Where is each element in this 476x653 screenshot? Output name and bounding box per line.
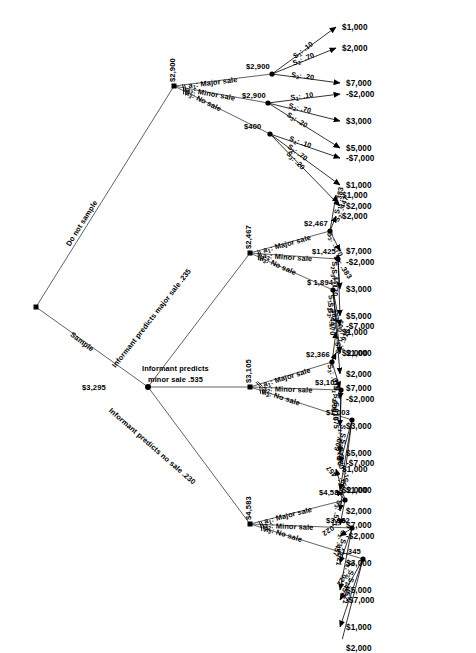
payoff-do-not-sample-a2-s1: -$2,000	[346, 90, 374, 99]
payoff-predicts-no-sale-a1-s1: $1,000	[342, 465, 368, 474]
payoff-do-not-sample-a1-s3: $7,000	[346, 79, 372, 88]
payoff-predicts-minor-sale-a2-s2: $3,000	[346, 422, 372, 431]
chance-node	[265, 100, 270, 105]
payoff-do-not-sample-a3-s3: $2,000	[346, 202, 372, 211]
payoff-predicts-major-sale-a2-s3: $5,000	[346, 312, 372, 321]
chance-emv-do-not-sample-a2: $2,900	[242, 91, 266, 100]
decision-node	[248, 385, 253, 390]
payoff-predicts-minor-sale-a1-s2: $2,000	[342, 349, 368, 358]
chance-emv-predicts-no-sale-a1: $4,583	[319, 488, 343, 497]
decision-node	[248, 522, 253, 527]
chance-emv-do-not-sample-a1: $2,900	[246, 62, 270, 71]
chance-emv-predicts-minor-sale-a3: $1,003	[326, 408, 350, 417]
payoff-predicts-major-sale-a3-s3: $2,000	[346, 370, 372, 379]
payoff-predicts-no-sale-a3-s3: $2,000	[346, 644, 372, 653]
chance-node	[269, 71, 274, 76]
chance-emv-predicts-no-sale-a3: $1,345	[337, 547, 361, 556]
payoff-do-not-sample-a3-s1: -$7,000	[346, 154, 374, 163]
payoff-do-not-sample-a2-s3: $5,000	[346, 144, 372, 153]
payoff-predicts-minor-sale-a1-s3: $7,000	[346, 384, 372, 393]
chance-emv-predicts-major-sale-a2: $1,425	[312, 247, 336, 256]
payoff-predicts-minor-sale-a3-s3: $2,000	[346, 507, 372, 516]
payoff-do-not-sample-a3-s2: $1,000	[346, 181, 372, 190]
chance-emv-predicts-minor-sale-a1: $2,366	[306, 350, 330, 359]
decision-emv-predicts-no-sale: $4,583	[244, 496, 253, 520]
decision-emv-predicts-major-sale: $2,467	[244, 225, 253, 249]
branch-label-informant-minor-1: Informant predicts	[142, 364, 209, 373]
payoff-predicts-minor-sale-a2-s3: $5,000	[346, 449, 372, 458]
decision-node	[172, 84, 177, 89]
decision-emv-predicts-minor-sale: $3,105	[244, 359, 253, 383]
payoff-predicts-major-sale-a2-s1: -$2,000	[346, 258, 374, 267]
payoff-predicts-major-sale-a1-s2: $2,000	[342, 212, 368, 221]
chance-emv-predicts-major-sale-a3: $ 1,894	[307, 278, 333, 287]
payoff-do-not-sample-a1-s1: $1,000	[342, 23, 368, 32]
branch-label-informant-minor-2: minor sale .535	[148, 375, 203, 384]
payoff-predicts-no-sale-a1-s3: $7,000	[346, 521, 372, 530]
payoff-predicts-no-sale-a3-s2: $1,000	[346, 623, 372, 632]
pruned-branch-mark	[261, 524, 262, 531]
payoff-predicts-no-sale-a1-s2: $2,000	[342, 486, 368, 495]
decision-emv-do-not-sample: $2,900	[168, 58, 177, 82]
chance-emv-predicts-major-sale-a1: $2,467	[304, 219, 328, 228]
payoff-predicts-major-sale-a2-s2: $3,000	[346, 285, 372, 294]
decision-node	[248, 251, 253, 256]
payoff-do-not-sample-a1-s2: $2,000	[342, 44, 368, 53]
chance-node	[145, 384, 151, 390]
chance-emv-do-not-sample-a3: $400	[244, 122, 261, 131]
payoff-predicts-no-sale-a2-s1: -$2,000	[346, 532, 374, 541]
payoff-predicts-major-sale-a1-s3: $7,000	[346, 247, 372, 256]
chance-node	[267, 131, 272, 136]
payoff-do-not-sample-a2-s2: $3,000	[346, 117, 372, 126]
pruned-branch-mark	[260, 387, 261, 394]
decision-node	[34, 305, 39, 310]
root-emv: $3,295	[82, 383, 106, 392]
payoff-predicts-minor-sale-a2-s1: -$2,000	[346, 395, 374, 404]
